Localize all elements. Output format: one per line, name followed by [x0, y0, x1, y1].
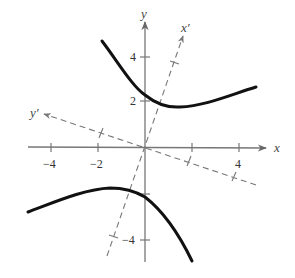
- x-tick-label-neg4: −4: [43, 157, 56, 171]
- hyperbola-upper-branch: [102, 41, 256, 107]
- x-tick-label-neg2: −2: [90, 157, 103, 171]
- y-prime-axis-label: y′: [28, 105, 39, 120]
- y-prime-axis: [44, 114, 256, 185]
- y-tick-label-neg4: −4: [122, 233, 135, 247]
- x-prime-axis-label: x′: [180, 20, 190, 35]
- y-tick-label-4: 4: [130, 50, 136, 64]
- y-tick-label-2: 2: [130, 94, 136, 108]
- x-tick-label-4: 4: [235, 157, 241, 171]
- hyperbola-diagram: −4 −2 4 x 4 2 −4 y x′ y′: [0, 0, 295, 278]
- x-axis-label: x: [273, 140, 280, 155]
- x-axis: [28, 143, 266, 152]
- y-axis-label: y: [139, 6, 147, 21]
- hyperbola-lower-branch: [28, 188, 192, 261]
- y-axis: [140, 22, 150, 262]
